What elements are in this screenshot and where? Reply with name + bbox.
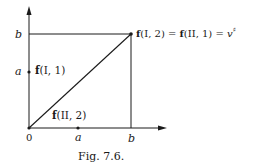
point-x-a — [76, 126, 79, 129]
y-tick-b: b — [15, 28, 22, 41]
label-corner: f(I, 2) = f(II, 1) = v♯ — [136, 26, 236, 39]
point-corner — [129, 32, 133, 36]
point-origin — [27, 126, 30, 129]
y-tick-a: a — [15, 65, 22, 78]
x-axis-arrow-icon — [158, 126, 167, 131]
point-y-a — [27, 70, 30, 73]
x-tick-b: b — [128, 132, 135, 145]
x-tick-a: a — [75, 131, 82, 144]
origin-label: 0 — [26, 132, 32, 143]
figure-caption: Fig. 7.6. — [78, 150, 124, 163]
label-f-I-1: f(I, 1) — [35, 64, 65, 76]
label-f-II-2: f(II, 2) — [52, 109, 86, 121]
y-axis-arrow-icon — [27, 6, 32, 15]
figure-canvas: b a 0 a b f(I, 1) f(II, 2) f(I, 2) = f(I… — [0, 0, 255, 167]
